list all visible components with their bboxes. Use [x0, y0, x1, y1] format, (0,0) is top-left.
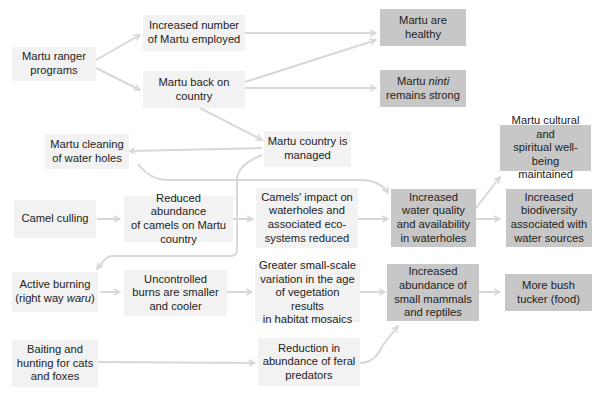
node-employed: Increased numberof Martu employed: [143, 15, 245, 51]
node-back-on-country: Martu back oncountry: [143, 71, 245, 108]
node-habitat-mosaics: Greater small-scalevariation in the ageo…: [255, 264, 360, 322]
node-water-quality: Increasedwater qualityand availabilityin…: [391, 189, 476, 247]
node-ninti: Martu nintiremains strong: [380, 70, 466, 107]
node-active-burning: Active burning(right way waru): [12, 272, 98, 312]
arrow-ranger-employed: [96, 35, 140, 60]
node-ranger-programs: Martu rangerprograms: [12, 47, 96, 81]
arrow-ranger-back: [96, 68, 140, 90]
arrow-back-healthy: [245, 40, 376, 82]
node-uncontrolled-burns: Uncontrolledburns are smallerand cooler: [124, 270, 227, 316]
node-healthy: Martu are healthy: [380, 9, 466, 46]
node-managed: Martu country ismanaged: [264, 131, 351, 167]
node-bush-tucker: More bushtucker (food): [505, 274, 592, 311]
arrow-predators-mammals: [360, 326, 398, 363]
arrow-managed-cleaning: [129, 148, 262, 151]
arrow-baiting-predators: [98, 362, 255, 363]
node-feral-predators: Reduction inabundance of feralpredators: [258, 338, 360, 386]
node-biodiversity: Increasedbiodiversityassociated withwate…: [506, 189, 592, 247]
node-cultural: Martu cultural andspiritual well-beingma…: [500, 125, 591, 171]
node-small-mammals: Increasedabundance ofsmall mammalsand re…: [387, 264, 479, 321]
node-baiting-hunting: Baiting andhunting for catsand foxes: [12, 340, 98, 387]
arrow-water-cultural: [476, 177, 500, 208]
arrow-back-managed: [200, 108, 262, 140]
node-camel-culling: Camel culling: [14, 200, 96, 238]
node-camel-impact: Camels' impact onwaterholes andassociate…: [256, 188, 358, 248]
node-reduced-camels: Reduced abundanceof camels on Martucount…: [124, 196, 233, 242]
node-cleaning: Martu cleaningof water holes: [45, 134, 129, 169]
